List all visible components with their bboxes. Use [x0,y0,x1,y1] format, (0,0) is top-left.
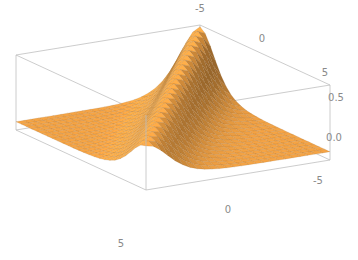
tick-label: -5 [195,3,205,14]
tick-label: 5 [118,238,124,249]
surface-plot-3d[interactable]: -5050.50.0-505 [0,0,358,260]
tick-label: 0 [225,204,231,215]
tick-label: 0 [259,33,265,44]
surface-mesh [16,27,330,170]
tick-label: 0.5 [328,92,344,103]
tick-label: 0.0 [326,132,342,143]
tick-label: -5 [313,175,323,186]
box-edge-top-left [16,25,200,55]
tick-label: 5 [322,67,328,78]
